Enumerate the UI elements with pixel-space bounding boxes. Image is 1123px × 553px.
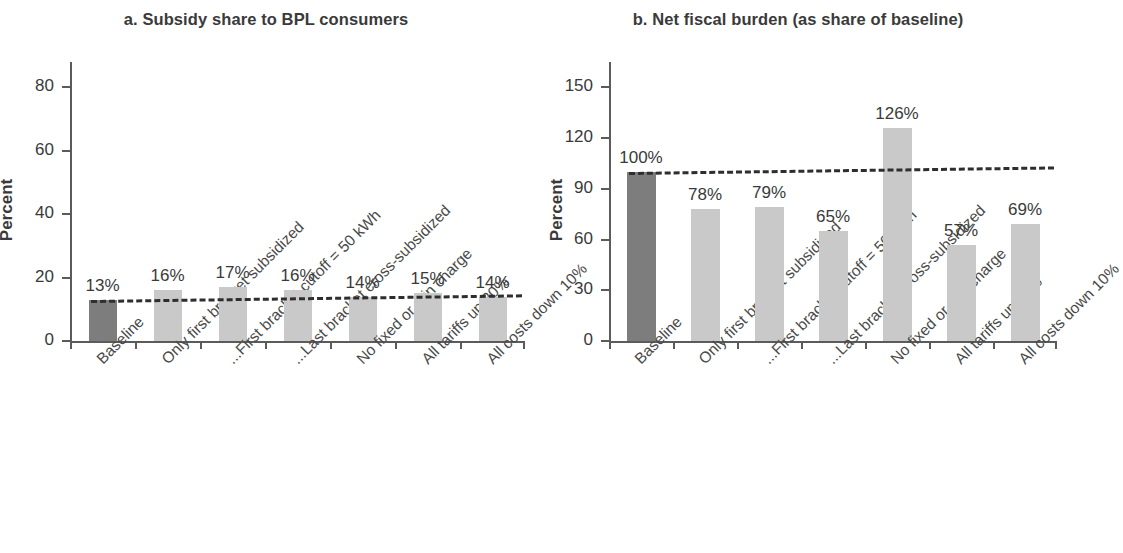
bar-scenario	[755, 207, 784, 341]
panel-a-plot-area: 02040608013%Baseline16%Only first bracke…	[70, 62, 525, 341]
y-axis-line	[70, 62, 72, 341]
panel-a-title: a. Subsidy share to BPL consumers	[0, 10, 532, 29]
x-axis-tick	[801, 341, 803, 349]
x-axis-tick	[200, 341, 202, 349]
x-axis-tick	[265, 341, 267, 349]
x-axis-tick	[330, 341, 332, 349]
baseline-reference-line	[629, 166, 1054, 175]
chart-panel-b: b. Net fiscal burden (as share of baseli…	[532, 0, 1064, 553]
x-axis-tick	[395, 341, 397, 349]
y-axis-tick-label: 40	[0, 203, 54, 223]
x-axis-tick	[135, 341, 137, 349]
y-axis-tick-label: 80	[0, 76, 54, 96]
y-axis-tick	[601, 340, 609, 342]
bar-baseline	[627, 172, 656, 341]
panel-b-title: b. Net fiscal burden (as share of baseli…	[532, 10, 1064, 29]
bar-value-label: 65%	[793, 207, 873, 227]
bar-value-label: 126%	[857, 104, 937, 124]
y-axis-tick-label: 90	[533, 178, 593, 198]
y-axis-tick-label: 150	[533, 76, 593, 96]
bar-value-label: 79%	[729, 183, 809, 203]
x-axis-tick	[460, 341, 462, 349]
x-axis-tick	[993, 341, 995, 349]
y-axis-tick-label: 0	[0, 330, 54, 350]
y-axis-tick	[62, 86, 70, 88]
bar-value-label: 100%	[601, 148, 681, 168]
y-axis-tick-label: 30	[533, 279, 593, 299]
y-axis-tick	[62, 213, 70, 215]
x-axis-tick	[737, 341, 739, 349]
bar-scenario	[883, 128, 912, 341]
x-axis-tick	[673, 341, 675, 349]
y-axis-tick	[601, 289, 609, 291]
y-axis-tick	[62, 150, 70, 152]
bar-value-label: 14%	[453, 273, 533, 293]
panel-b-plot-area: 0306090120150100%Baseline78%Only first b…	[609, 62, 1057, 341]
x-axis-tick	[865, 341, 867, 349]
y-axis-tick	[601, 188, 609, 190]
bar-scenario	[691, 209, 720, 341]
y-axis-line	[609, 62, 611, 341]
y-axis-tick-label: 20	[0, 267, 54, 287]
y-axis-tick	[601, 239, 609, 241]
bar-value-label: 69%	[985, 200, 1065, 220]
y-axis-tick-label: 60	[0, 140, 54, 160]
chart-panel-a: a. Subsidy share to BPL consumers Percen…	[0, 0, 532, 553]
bar-value-label: 57%	[921, 221, 1001, 241]
y-axis-tick-label: 60	[533, 229, 593, 249]
x-axis-tick	[70, 341, 72, 349]
bar-scenario	[1011, 224, 1040, 341]
x-axis-tick	[609, 341, 611, 349]
x-axis-tick	[523, 341, 525, 349]
y-axis-tick-label: 0	[533, 330, 593, 350]
bar-scenario	[947, 245, 976, 341]
x-axis-tick	[929, 341, 931, 349]
bar-scenario	[819, 231, 848, 341]
x-axis-tick	[1055, 341, 1057, 349]
y-axis-tick	[601, 86, 609, 88]
y-axis-tick-label: 120	[533, 127, 593, 147]
bar-scenario	[219, 287, 247, 341]
y-axis-tick	[601, 137, 609, 139]
y-axis-tick	[62, 340, 70, 342]
